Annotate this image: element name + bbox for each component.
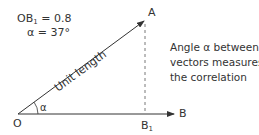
- origin-label: O: [13, 118, 22, 130]
- ob1-text: OB: [17, 12, 33, 25]
- caption-line-1: Angle α between: [170, 40, 259, 55]
- point-b-label: B: [179, 108, 187, 120]
- caption-line-2: vectors measures: [170, 55, 259, 70]
- alpha-value-label: α = 37°: [27, 27, 70, 39]
- vector-oa-label: Unit length: [52, 48, 109, 95]
- caption: Angle α between vectors measures the cor…: [170, 40, 259, 85]
- b1-text: B: [141, 119, 149, 132]
- angle-arc: [34, 102, 38, 114]
- point-a-label: A: [148, 7, 156, 19]
- angle-alpha-label: α: [40, 102, 47, 114]
- point-b1-label: B1: [141, 120, 153, 135]
- ob1-number: = 0.8: [38, 12, 72, 25]
- caption-line-3: the correlation: [170, 70, 259, 85]
- b1-subscript: 1: [149, 125, 153, 133]
